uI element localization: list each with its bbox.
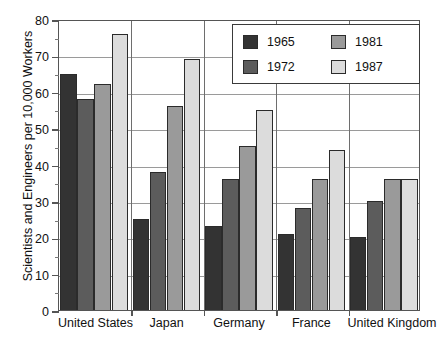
legend-label: 1965 xyxy=(267,35,295,49)
y-axis-tick-label: 50 xyxy=(35,124,49,137)
legend-label: 1972 xyxy=(267,60,295,74)
x-axis-category-label: Japan xyxy=(130,316,202,330)
y-axis-tick xyxy=(52,166,59,167)
y-axis-tick-label: 40 xyxy=(35,160,49,173)
x-axis-category-label: United Kingdom xyxy=(348,316,420,330)
y-axis-tick-label: 30 xyxy=(35,197,49,210)
y-axis-minor-tick xyxy=(55,39,59,40)
bar[interactable] xyxy=(184,59,201,310)
y-axis-minor-tick xyxy=(55,184,59,185)
bar[interactable] xyxy=(312,179,329,310)
y-axis-minor-tick xyxy=(55,257,59,258)
y-axis-title: Scientists and Engineers per 10,000 Work… xyxy=(21,16,35,296)
bar[interactable] xyxy=(222,179,239,310)
y-axis-tick xyxy=(52,57,59,58)
bar[interactable] xyxy=(77,99,94,310)
legend-item-1965[interactable]: 1965 xyxy=(243,35,325,49)
legend-swatch-icon xyxy=(331,35,346,49)
y-axis-tick xyxy=(52,93,59,94)
bar[interactable] xyxy=(350,237,367,310)
bar[interactable] xyxy=(167,106,184,310)
bar[interactable] xyxy=(278,234,295,310)
chart-legend: 1965198119721987 xyxy=(232,24,420,84)
legend-item-1981[interactable]: 1981 xyxy=(331,35,413,49)
legend-swatch-icon xyxy=(243,60,258,74)
y-axis-tick xyxy=(52,275,59,276)
bar[interactable] xyxy=(150,172,167,310)
chart-container: Scientists and Engineers per 10,000 Work… xyxy=(0,0,438,355)
legend-item-1972[interactable]: 1972 xyxy=(243,60,325,74)
bar[interactable] xyxy=(205,226,222,310)
bar[interactable] xyxy=(239,146,256,310)
y-axis-tick-label: 60 xyxy=(35,88,49,101)
y-axis-tick xyxy=(52,311,59,312)
x-axis-category-label: Germany xyxy=(203,316,275,330)
bar[interactable] xyxy=(384,179,401,310)
y-axis-tick-label: 80 xyxy=(35,15,49,28)
y-axis-tick xyxy=(52,202,59,203)
bar-group xyxy=(60,21,128,310)
legend-item-1987[interactable]: 1987 xyxy=(331,60,413,74)
y-axis-tick xyxy=(52,20,59,21)
bar[interactable] xyxy=(112,34,129,310)
y-axis-minor-tick xyxy=(55,75,59,76)
y-axis-minor-tick xyxy=(55,293,59,294)
y-axis-minor-tick xyxy=(55,111,59,112)
y-axis-tick-label: 10 xyxy=(35,269,49,282)
x-axis-category-label: United States xyxy=(58,316,130,330)
legend-swatch-icon xyxy=(331,60,346,74)
bar[interactable] xyxy=(367,201,384,310)
legend-swatch-icon xyxy=(243,35,258,49)
bar[interactable] xyxy=(133,219,150,310)
y-axis-tick xyxy=(52,129,59,130)
legend-label: 1987 xyxy=(355,60,383,74)
bar[interactable] xyxy=(60,74,77,310)
y-axis-tick-label: 20 xyxy=(35,233,49,246)
legend-label: 1981 xyxy=(355,35,383,49)
bar[interactable] xyxy=(94,84,111,310)
y-axis-tick-label: 0 xyxy=(42,306,49,319)
y-axis-tick-label: 70 xyxy=(35,51,49,64)
x-axis-category-label: France xyxy=(275,316,347,330)
bar[interactable] xyxy=(329,150,346,310)
bar[interactable] xyxy=(295,208,312,310)
y-axis-tick xyxy=(52,239,59,240)
bar[interactable] xyxy=(401,179,418,310)
y-axis-minor-tick xyxy=(55,148,59,149)
y-axis-minor-tick xyxy=(55,221,59,222)
bar-group xyxy=(133,21,201,310)
bar[interactable] xyxy=(256,110,273,310)
